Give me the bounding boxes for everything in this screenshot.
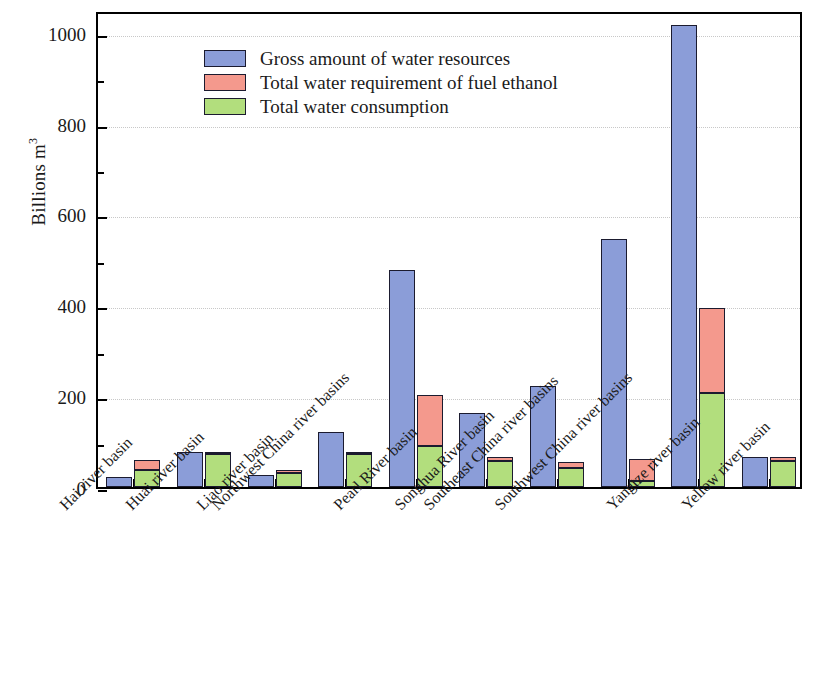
bar-stack-ethanol-and-consumption [770,457,796,487]
bar-gross-water-resources [601,239,627,487]
legend-item: Gross amount of water resources [204,46,558,70]
bar-stack-ethanol-and-consumption [276,470,302,487]
legend-swatch-red [204,74,246,91]
y-axis-major-tick [98,36,107,38]
y-axis-minor-tick [98,81,104,83]
y-axis-major-tick [98,490,107,492]
bar-gross-water-resources [106,477,132,487]
y-axis-major-tick [98,399,107,401]
legend-item: Total water requirement of fuel ethanol [204,70,558,94]
bar-stack-ethanol-and-consumption [558,462,584,487]
y-axis-title-exponent: 3 [26,138,40,144]
bar-segment-total-water-consumption [276,473,302,487]
legend-label: Total water requirement of fuel ethanol [260,73,558,92]
y-axis-tick-label: 200 [26,388,86,407]
y-axis-major-tick [98,308,107,310]
y-axis-minor-tick [98,354,104,356]
y-axis-minor-tick [98,445,104,447]
y-axis-minor-tick [98,172,104,174]
legend-swatch-blue [204,50,246,67]
legend-item: Total water consumption [204,94,558,118]
y-axis-tick-label: 1000 [26,25,86,44]
y-axis-tick-label: 800 [26,116,86,135]
y-axis-tick-label: 600 [26,206,86,225]
bar-segment-total-water-consumption [558,468,584,487]
bar-chart-figure: Billions m3 02004006008001000 Gross amou… [0,0,824,678]
y-axis-tick-label: 400 [26,297,86,316]
y-axis-major-tick [98,127,107,129]
y-axis-major-tick [98,217,107,219]
bar-segment-fuel-ethanol-requirement [699,308,725,392]
bar-segment-fuel-ethanol-requirement [417,395,443,446]
chart-legend: Gross amount of water resources Total wa… [196,38,568,126]
legend-label: Total water consumption [260,97,449,116]
plot-area: Gross amount of water resources Total wa… [96,12,802,489]
y-axis-minor-tick [98,263,104,265]
bar-gross-water-resources [742,457,768,487]
legend-swatch-green [204,98,246,115]
bar-segment-total-water-consumption [770,461,796,487]
legend-label: Gross amount of water resources [260,49,510,68]
bar-gross-water-resources [318,432,344,487]
